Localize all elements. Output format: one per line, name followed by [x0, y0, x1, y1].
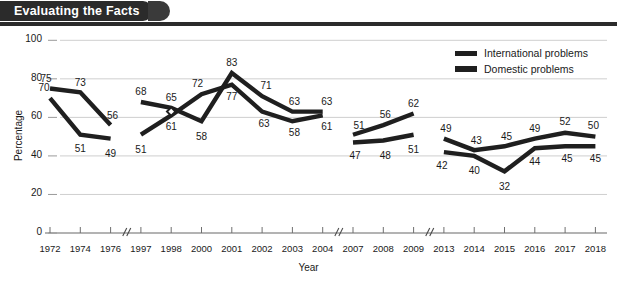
x-tick-label: 2000	[186, 243, 218, 254]
legend-swatch-icon-international	[455, 51, 477, 56]
x-tick-label: 2008	[367, 243, 399, 254]
data-label-international: 68	[128, 86, 154, 97]
data-label-international: 83	[219, 57, 245, 68]
data-label-domestic: 44	[522, 156, 548, 167]
axis-break-markers	[123, 228, 434, 236]
data-label-international: 63	[281, 96, 307, 107]
x-tick-label: 1974	[64, 243, 96, 254]
y-tick-label: 100	[0, 33, 42, 44]
data-label-domestic: 45	[582, 153, 608, 164]
data-label-domestic: 32	[492, 181, 518, 192]
x-tick-label: 2017	[549, 243, 581, 254]
y-tick-label: 0	[0, 226, 42, 237]
legend-label-international: International problems	[484, 47, 588, 59]
x-tick-label: 2016	[519, 243, 551, 254]
x-tick-label: 2009	[398, 243, 430, 254]
chart-svg	[0, 0, 617, 282]
data-label-domestic: 72	[185, 78, 211, 89]
data-label-domestic: 63	[251, 118, 277, 129]
data-label-international: 52	[552, 116, 578, 127]
x-tick-label: 2004	[307, 243, 339, 254]
data-label-domestic: 58	[281, 127, 307, 138]
data-label-international: 50	[580, 120, 606, 131]
data-label-domestic: 42	[429, 160, 455, 171]
data-label-international: 58	[189, 131, 215, 142]
y-axis-title: Percentage	[13, 96, 24, 176]
x-tick-label: 2013	[428, 243, 460, 254]
data-label-international: 43	[463, 135, 489, 146]
x-tick-label: 2002	[246, 243, 278, 254]
chart-legend: International problems Domestic problems	[455, 47, 588, 79]
chart-plot: 020406080100 Percentage 1972197419761997…	[0, 0, 617, 282]
data-label-domestic: 51	[401, 144, 427, 155]
x-axis-title: Year	[0, 262, 617, 273]
data-label-domestic: 61	[314, 121, 340, 132]
legend-item-domestic: Domestic problems	[455, 63, 588, 75]
data-label-domestic: 70	[31, 82, 57, 93]
data-label-domestic: 51	[128, 144, 154, 155]
data-label-international: 63	[314, 96, 340, 107]
data-label-international: 51	[346, 120, 372, 131]
legend-label-domestic: Domestic problems	[484, 63, 574, 75]
data-label-domestic: 49	[98, 148, 124, 159]
data-label-domestic: 77	[219, 91, 245, 102]
legend-swatch-icon-domestic	[455, 66, 477, 72]
x-tick-label: 2018	[579, 243, 611, 254]
data-label-international: 49	[522, 123, 548, 134]
x-tick-label: 2014	[458, 243, 490, 254]
x-tick-label: 1997	[125, 243, 157, 254]
data-label-international: 62	[401, 98, 427, 109]
x-tick-label: 2003	[276, 243, 308, 254]
x-tick-label: 1998	[155, 243, 187, 254]
data-label-international: 73	[67, 77, 93, 88]
data-label-international: 49	[433, 123, 459, 134]
x-tick-label: 1972	[34, 243, 66, 254]
x-tick-label: 2001	[216, 243, 248, 254]
data-label-international: 71	[253, 80, 279, 91]
data-label-domestic: 51	[67, 143, 93, 154]
legend-item-international: International problems	[455, 47, 588, 59]
data-label-international: 45	[494, 131, 520, 142]
data-label-domestic: 45	[554, 153, 580, 164]
data-label-domestic: 61	[158, 121, 184, 132]
x-tick-label: 1976	[95, 243, 127, 254]
x-tick-label: 2015	[489, 243, 521, 254]
x-tick-label: 2007	[337, 243, 369, 254]
data-label-domestic: 48	[372, 150, 398, 161]
x-axis-ticks	[50, 227, 595, 233]
data-label-domestic: 40	[461, 165, 487, 176]
data-label-international: 56	[372, 109, 398, 120]
data-label-international: 56	[100, 110, 126, 121]
y-tick-label: 20	[0, 187, 42, 198]
data-label-international: 65	[158, 92, 184, 103]
data-label-domestic: 47	[342, 150, 368, 161]
